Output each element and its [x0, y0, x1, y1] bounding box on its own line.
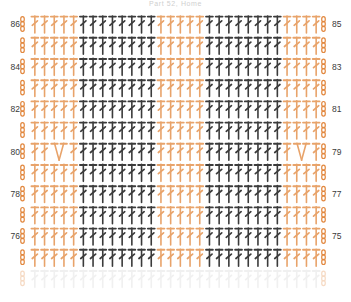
stitch-double-crochet: [99, 58, 106, 75]
stitch-double-crochet: [274, 122, 281, 139]
stitch-double-crochet: [245, 37, 252, 54]
stitch-double-crochet: [235, 80, 242, 97]
stitch-double-crochet: [284, 164, 291, 181]
stitch-double-crochet: [235, 101, 242, 118]
stitch-double-crochet: [167, 37, 174, 54]
stitch-double-crochet: [303, 164, 310, 181]
stitch-double-crochet: [225, 122, 232, 139]
stitch-double-crochet: [167, 16, 174, 33]
stitch-double-crochet: [274, 207, 281, 224]
stitch-double-crochet: [51, 249, 58, 266]
stitch-double-crochet: [148, 186, 155, 203]
stitch-double-crochet: [31, 164, 38, 181]
stitch-double-crochet: [90, 143, 97, 160]
stitch-double-crochet: [99, 37, 106, 54]
turning-chain: [21, 80, 25, 95]
stitch-double-crochet: [31, 228, 38, 245]
stitch-double-crochet: [196, 143, 203, 160]
stitch-double-crochet: [255, 101, 262, 118]
stitch-double-crochet: [51, 207, 58, 224]
stitch-double-crochet: [225, 80, 232, 97]
stitch-double-crochet: [206, 16, 213, 33]
stitch-double-crochet: [293, 37, 300, 54]
stitch-double-crochet: [196, 80, 203, 97]
turning-chain: [21, 207, 25, 222]
stitch-double-crochet: [31, 270, 38, 287]
stitch-double-crochet: [119, 58, 126, 75]
stitch-double-crochet: [109, 122, 116, 139]
stitch-double-crochet: [148, 80, 155, 97]
stitch-double-crochet: [148, 37, 155, 54]
turning-chain: [322, 186, 326, 201]
turning-chain: [21, 271, 25, 286]
stitch-double-crochet: [177, 186, 184, 203]
stitch-double-crochet: [51, 58, 58, 75]
stitch-double-crochet: [303, 207, 310, 224]
stitch-double-crochet: [274, 186, 281, 203]
stitch-double-crochet: [293, 122, 300, 139]
turning-chain: [21, 38, 25, 53]
stitch-double-crochet: [274, 37, 281, 54]
stitch-double-crochet: [177, 58, 184, 75]
stitch-double-crochet: [128, 207, 135, 224]
stitch-double-crochet: [177, 143, 184, 160]
stitch-double-crochet: [158, 122, 165, 139]
stitch-double-crochet: [255, 16, 262, 33]
stitch-double-crochet: [51, 186, 58, 203]
stitch-double-crochet: [138, 80, 145, 97]
turning-chain: [322, 229, 326, 244]
stitch-double-crochet: [90, 270, 97, 287]
stitch-double-crochet: [177, 37, 184, 54]
stitch-double-crochet: [51, 37, 58, 54]
stitch-double-crochet: [99, 164, 106, 181]
stitch-double-crochet: [70, 270, 77, 287]
stitch-double-crochet: [196, 101, 203, 118]
stitch-double-crochet: [70, 186, 77, 203]
stitch-double-crochet: [206, 37, 213, 54]
stitch-double-crochet: [158, 16, 165, 33]
stitch-double-crochet: [235, 58, 242, 75]
crochet-chart-diagram: Part 52, Home 868482807876858381797775: [0, 0, 351, 302]
stitch-double-crochet: [80, 186, 87, 203]
stitch-double-crochet: [167, 249, 174, 266]
stitch-double-crochet: [138, 143, 145, 160]
stitch-double-crochet: [216, 143, 223, 160]
stitch-double-crochet: [264, 186, 271, 203]
stitch-double-crochet: [61, 101, 68, 118]
stitch-double-crochet: [148, 249, 155, 266]
stitch-double-crochet: [119, 249, 126, 266]
stitch-double-crochet: [303, 58, 310, 75]
stitch-double-crochet: [255, 207, 262, 224]
stitch-double-crochet: [235, 164, 242, 181]
stitch-double-crochet: [274, 228, 281, 245]
stitch-double-crochet: [206, 164, 213, 181]
stitch-double-crochet: [80, 16, 87, 33]
stitch-double-crochet: [216, 101, 223, 118]
stitch-double-crochet: [187, 270, 194, 287]
stitch-double-crochet: [255, 270, 262, 287]
stitch-double-crochet: [80, 143, 87, 160]
stitch-double-crochet: [303, 37, 310, 54]
stitch-double-crochet: [293, 58, 300, 75]
turning-chain: [21, 123, 25, 138]
stitch-double-crochet: [216, 58, 223, 75]
stitch-double-crochet: [255, 249, 262, 266]
stitch-double-crochet: [128, 37, 135, 54]
stitch-double-crochet: [128, 164, 135, 181]
stitch-double-crochet: [225, 143, 232, 160]
stitch-double-crochet: [51, 80, 58, 97]
stitch-double-crochet: [235, 16, 242, 33]
stitch-double-crochet: [148, 228, 155, 245]
stitch-double-crochet: [31, 16, 38, 33]
row-number-right-75: 75: [332, 232, 350, 241]
stitch-double-crochet: [128, 80, 135, 97]
stitch-double-crochet: [196, 16, 203, 33]
stitch-double-crochet: [138, 122, 145, 139]
stitch-double-crochet: [177, 207, 184, 224]
stitch-double-crochet: [51, 228, 58, 245]
stitch-canvas: [0, 0, 351, 302]
stitch-double-crochet: [245, 270, 252, 287]
stitch-double-crochet: [206, 249, 213, 266]
stitch-double-crochet: [284, 101, 291, 118]
stitch-double-crochet: [255, 37, 262, 54]
